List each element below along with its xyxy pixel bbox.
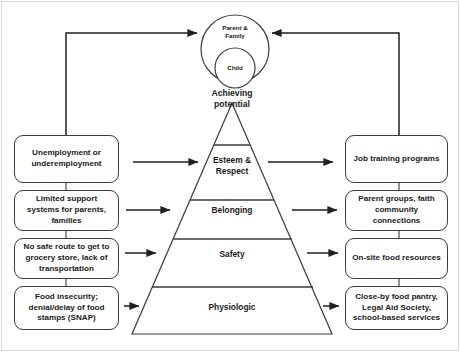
left-box-food-insecurity[interactable]: Food insecurity; denial/delay of food st… xyxy=(14,286,119,330)
right-box-food-pantry[interactable]: Close-by food pantry, Legal Aid Society,… xyxy=(345,286,448,330)
parent-family-label-line1: Parent & xyxy=(200,24,270,32)
parent-family-label-line2: Family xyxy=(200,32,270,40)
child-label: Child xyxy=(200,64,270,72)
left-box-no-safe-route[interactable]: No safe route to get to grocery store, l… xyxy=(14,238,119,279)
achieving-potential-line1: Achieving xyxy=(187,88,277,99)
pyramid-level-esteem-line1: Esteem & xyxy=(172,155,292,166)
right-box-job-training[interactable]: Job training programs xyxy=(345,135,448,183)
pyramid-level-esteem-line2: Respect xyxy=(172,166,292,177)
right-box-onsite-food[interactable]: On-site food resources xyxy=(345,238,448,279)
pyramid-level-physiologic: Physiologic xyxy=(172,302,292,313)
pyramid-level-esteem: Esteem & Respect xyxy=(172,155,292,176)
pyramid-level-belonging: Belonging xyxy=(172,205,292,216)
achieving-potential-label: Achieving potential xyxy=(187,88,277,109)
parent-family-label: Parent & Family xyxy=(200,24,270,40)
achieving-potential-line2: potential xyxy=(187,99,277,110)
left-box-limited-support[interactable]: Limited support systems for parents, fam… xyxy=(14,190,119,231)
pyramid-level-safety: Safety xyxy=(172,249,292,260)
diagram-canvas: Parent & Family Child Achieving potentia… xyxy=(0,0,460,352)
left-box-unemployment[interactable]: Unemployment or underemployment xyxy=(14,135,119,183)
pyramid-outline xyxy=(132,103,332,334)
right-box-parent-groups[interactable]: Parent groups, faith community connectio… xyxy=(345,190,448,231)
